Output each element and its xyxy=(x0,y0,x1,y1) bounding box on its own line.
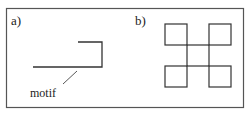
square-center xyxy=(187,45,209,66)
panel-b-label: b) xyxy=(135,13,146,28)
figure: a) motif b) xyxy=(0,0,249,114)
motif-path xyxy=(33,42,102,67)
diagram-canvas: a) motif b) xyxy=(0,0,249,114)
square-grid xyxy=(165,24,231,87)
motif-label: motif xyxy=(30,86,56,100)
panel-b: b) xyxy=(135,13,231,87)
square-bottom-right xyxy=(209,66,231,87)
square-top-right xyxy=(209,24,231,45)
motif-leader-line xyxy=(63,71,77,84)
square-top-left xyxy=(165,24,187,45)
panel-a-label: a) xyxy=(11,13,21,28)
panel-a: a) motif xyxy=(11,13,102,100)
square-bottom-left xyxy=(165,66,187,87)
